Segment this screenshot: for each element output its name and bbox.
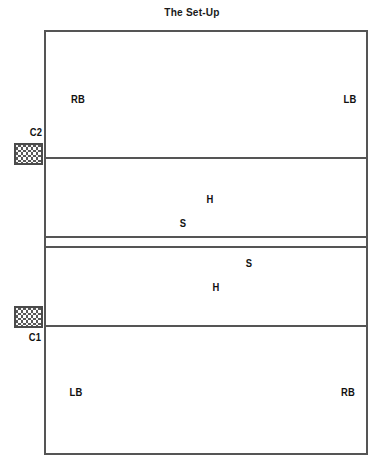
cart-c1-icon (14, 306, 43, 328)
attack-line-top (44, 157, 368, 159)
volleyball-court (44, 30, 368, 455)
player-lb-bottom: LB (69, 387, 82, 398)
cart-c2-icon (14, 143, 43, 165)
player-rb-bottom: RB (341, 387, 355, 398)
cart-c2-label: C2 (30, 127, 43, 138)
center-line-lower (44, 246, 368, 248)
set-up-diagram: The Set-Up RBLBHSSHLBRB C2C1 (0, 0, 384, 470)
player-h-upper-middle: H (206, 194, 213, 205)
player-rb-top: RB (71, 94, 85, 105)
player-s-lower-middle: S (246, 258, 253, 269)
cart-c1-label: C1 (29, 332, 42, 343)
player-s-upper-middle: S (180, 218, 187, 229)
page-title: The Set-Up (15, 6, 368, 18)
player-lb-top: LB (343, 94, 356, 105)
attack-line-bottom (44, 325, 368, 327)
player-h-lower-middle: H (212, 282, 219, 293)
center-line-upper (44, 236, 368, 238)
